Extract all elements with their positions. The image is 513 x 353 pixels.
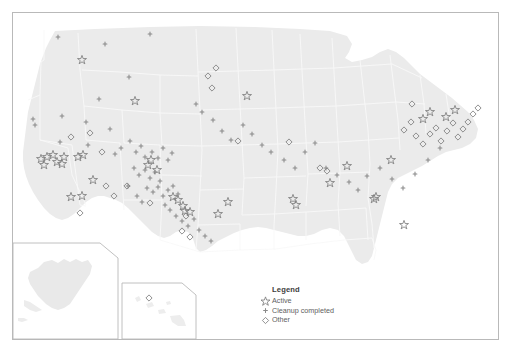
legend-title: Legend — [272, 286, 354, 294]
map-figure: Legend Active Cleanup completed Other — [0, 0, 513, 353]
legend-item-cleanup-completed: Cleanup completed — [258, 306, 354, 316]
hawaii-inset — [122, 283, 196, 339]
legend-label-cleanup-completed: Cleanup completed — [272, 307, 334, 315]
us-map-graphic — [0, 0, 513, 353]
map-legend: Legend Active Cleanup completed Other — [258, 286, 354, 325]
diamond-outline-icon — [258, 315, 272, 325]
legend-label-other: Other — [272, 316, 290, 324]
legend-label-active: Active — [272, 297, 292, 305]
legend-item-active: Active — [258, 296, 354, 306]
legend-item-other: Other — [258, 315, 354, 325]
alaska-inset — [13, 243, 118, 339]
